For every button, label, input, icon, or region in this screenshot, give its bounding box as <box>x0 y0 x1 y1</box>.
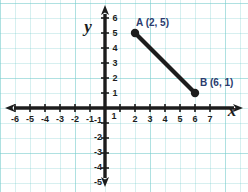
x-tick-label-2: 2 <box>132 115 137 124</box>
x-tick-label--5: -5 <box>26 115 34 124</box>
y-tick-label-5: 5 <box>112 29 117 38</box>
point-b <box>191 89 199 97</box>
y-tick-label-1: 1 <box>112 89 117 98</box>
y-tick-label--2: -2 <box>94 133 102 142</box>
point-b-label: B (6, 1) <box>200 78 233 88</box>
y-tick-label-2: 2 <box>112 74 117 83</box>
plot-area <box>0 0 248 192</box>
coordinate-plane-figure: -6 -5 -4 -3 -2 -1 1 2 3 4 5 6 7 6 5 4 3 … <box>0 0 248 192</box>
x-tick-label-7: 7 <box>207 115 212 124</box>
x-tick-label--4: -4 <box>41 115 49 124</box>
x-tick-label-5: 5 <box>177 115 182 124</box>
y-tick-label--1: -1 <box>94 116 102 125</box>
point-a-label: A (2, 5) <box>136 18 169 28</box>
x-tick-label--6: -6 <box>11 115 19 124</box>
segment-ab <box>135 33 195 93</box>
y-axis-label: y <box>84 18 92 35</box>
x-tick-label--3: -3 <box>56 115 64 124</box>
x-tick-label-6: 6 <box>192 115 197 124</box>
y-tick-label--4: -4 <box>94 163 102 172</box>
y-tick-label-4: 4 <box>112 44 117 53</box>
y-tick-label--3: -3 <box>94 148 102 157</box>
point-a <box>131 29 139 37</box>
x-tick-label--1: -1 <box>86 115 94 124</box>
x-tick-label-4: 4 <box>162 115 167 124</box>
x-tick-label-1: 1 <box>111 112 116 121</box>
x-tick-label-3: 3 <box>147 115 152 124</box>
y-tick-label-3: 3 <box>112 59 117 68</box>
y-tick-label--5: -5 <box>94 178 102 187</box>
y-tick-label-6: 6 <box>112 14 117 23</box>
x-axis-label: x <box>228 102 237 119</box>
x-tick-label--2: -2 <box>71 115 79 124</box>
